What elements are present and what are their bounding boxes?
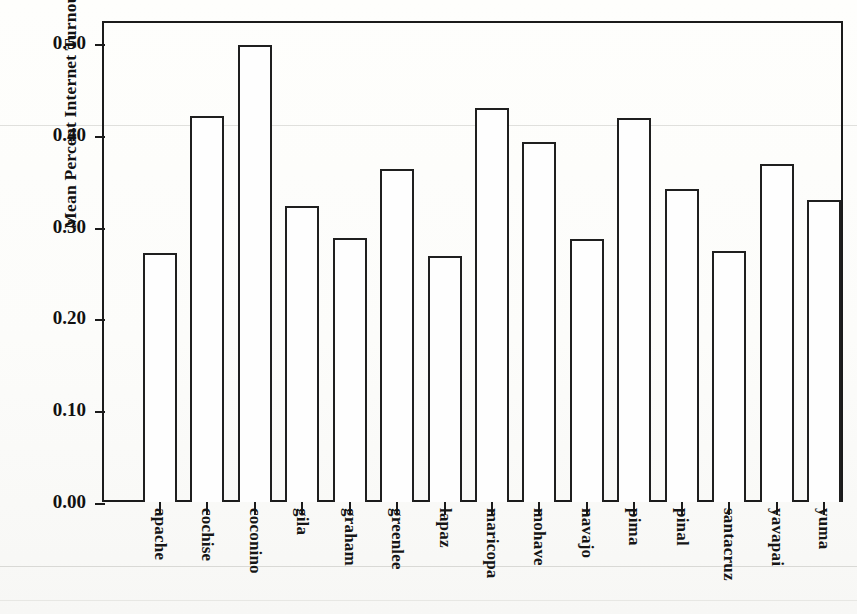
bar [285, 206, 319, 502]
x-axis-tick-label: graham [340, 508, 360, 566]
bar [143, 253, 177, 502]
x-axis-tick-label: mohave [529, 508, 549, 566]
y-axis-tick-label: 0.00 [24, 492, 86, 511]
x-axis-tick-label: lapaz [435, 508, 455, 548]
bar [190, 116, 224, 502]
x-axis-tick-label: gila [292, 508, 312, 535]
bar-series [102, 21, 843, 502]
x-axis-tick-label-slot: yavapai [766, 502, 788, 608]
bar [380, 169, 414, 502]
bar [807, 200, 841, 502]
x-axis-tick-label-slot: maricopa [481, 502, 503, 608]
x-axis-tick-label: maricopa [482, 508, 502, 579]
bar [760, 164, 794, 502]
x-axis-tick-label-slot: greenlee [386, 502, 408, 608]
x-axis-tick-label-slot: cochise [196, 502, 218, 608]
chart-page: Mean Percent Internet Turnout 0.000.100.… [0, 0, 857, 614]
x-axis-tick-label-slot: mohave [528, 502, 550, 608]
x-axis-tick-label: santacruz [719, 508, 739, 581]
x-axis-tick-label: cochise [197, 508, 217, 561]
x-axis-tick-label-slot: yuma [813, 502, 835, 608]
x-axis-tick-label-slot: pima [623, 502, 645, 608]
bar [428, 256, 462, 502]
x-axis-tick-label: navajo [577, 508, 597, 558]
y-axis-tick-labels: 0.000.100.200.300.400.50 [20, 0, 86, 614]
x-axis-tick-label-slot: apache [149, 502, 171, 608]
x-axis-tick-label: pima [624, 508, 644, 546]
x-axis-tick-label-slot: lapaz [434, 502, 456, 608]
bar [617, 118, 651, 502]
y-axis-tick-label: 0.10 [24, 400, 86, 419]
x-axis-tick-label: greenlee [387, 508, 407, 570]
x-axis-tick-label-slot: santacruz [718, 502, 740, 608]
bar [475, 108, 509, 502]
x-axis-tick-label-slot: graham [339, 502, 361, 608]
y-axis-tick-label: 0.50 [24, 33, 86, 52]
x-axis-tick-label: coconino [245, 508, 265, 574]
y-axis-tick-label: 0.20 [24, 308, 86, 327]
y-axis-tick-label: 0.30 [24, 217, 86, 236]
x-axis-tick-label-slot: navajo [576, 502, 598, 608]
x-axis-tick-label: apache [150, 508, 170, 560]
x-axis-tick-label: yavapai [767, 508, 787, 566]
y-axis-tick-label: 0.40 [24, 125, 86, 144]
x-axis-tick-labels: apachecochisecoconinogilagrahamgreenleel… [102, 502, 843, 614]
bar [570, 239, 604, 502]
x-axis-tick-label-slot: coconino [244, 502, 266, 608]
bar [333, 238, 367, 502]
x-axis-tick-label: yuma [814, 508, 834, 549]
x-axis-tick-label-slot: gila [291, 502, 313, 608]
x-axis-tick-label: pinal [672, 508, 692, 546]
x-axis-tick-label-slot: pinal [671, 502, 693, 608]
bar [238, 45, 272, 502]
bar [712, 251, 746, 502]
bar [665, 189, 699, 502]
bar [522, 142, 556, 502]
